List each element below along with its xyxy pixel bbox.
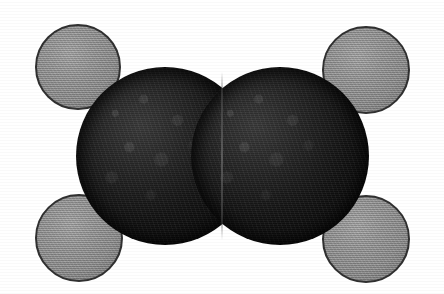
carbon-atom-right-label: C <box>191 67 192 68</box>
carbon-carbon-bond-label: C=C double bond <box>221 72 222 73</box>
hydrogen-atom-bottom-left-label: H <box>37 196 38 197</box>
molecular-model-figure: Ethylene H H H H C C C=C double bond <box>0 0 444 294</box>
hydrogen-atom-top-left-label: H <box>37 26 38 27</box>
carbon-atom-right: C <box>191 67 369 245</box>
hydrogen-atom-top-right-label: H <box>324 28 325 29</box>
figure-caption: Ethylene <box>0 0 1 1</box>
